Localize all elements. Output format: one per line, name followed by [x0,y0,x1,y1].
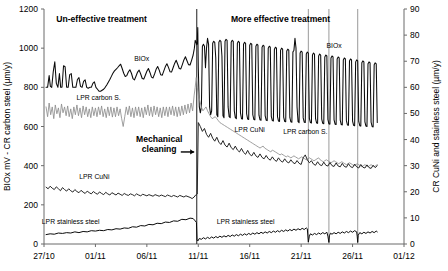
x-tick-label: 11/11 [188,251,208,261]
y-tick-label-right: 80 [410,30,420,40]
more-effective-treatment: More effective treatment [231,14,330,24]
axis-titles-layer: BIOx mV - CR carbon steel (µm/y)CR CuNi … [2,60,441,193]
y-tick-label-right: 50 [410,108,420,118]
mechanical-cleaning: Mechanicalcleaning [136,134,182,154]
series-label-lpr-cuni: LPR CuNi [235,126,266,133]
y-axis-title-right: CR CuNi and stainless steel (µm/y) [431,60,441,193]
y-tick-label-left: 1200 [19,4,38,14]
series-label-biox: BIOx [134,55,150,62]
y-tick-label-right: 90 [410,4,420,14]
y-tick-label-right: 10 [410,213,420,223]
x-tick-label: 21/11 [291,251,312,261]
chart-svg: 0200400600800100012000102030405060708090… [0,0,448,271]
x-tick-label: 01/11 [85,251,106,261]
y-tick-label-right: 60 [410,82,420,92]
series-label-lpr-stainless-steel: LPR stainless steel [217,218,275,225]
series-label-lpr-carbon-s: LPR carbon S. [76,94,120,101]
y-tick-label-right: 40 [410,135,420,145]
y-tick-label-left: 1000 [19,43,38,53]
x-tick-label: 27/10 [33,251,55,261]
y-tick-label-right: 20 [410,187,420,197]
y-tick-label-left: 800 [24,82,38,92]
y-tick-label-left: 600 [24,122,38,132]
x-tick-label: 16/11 [239,251,260,261]
x-tick-label: 26/11 [342,251,363,261]
series-label-lpr-stainless-steel: LPR stainless steel [42,218,100,225]
y-tick-label-left: 200 [24,200,38,210]
chart-figure: 0200400600800100012000102030405060708090… [0,0,448,271]
series-label-lpr-carbon-s: LPR carbon S. [283,128,327,135]
y-tick-label-right: 30 [410,161,420,171]
y-tick-label-left: 0 [33,239,38,249]
series-label-lpr-cuni: LPR CuNi [79,173,110,180]
series-labels-layer: BIOxBIOxLPR carbon S.LPR carbon S.LPR Cu… [42,42,342,225]
y-tick-label-right: 0 [410,239,415,249]
x-tick-label: 01/12 [393,251,415,261]
x-tick-label: 06/11 [137,251,158,261]
y-tick-label-left: 400 [24,161,38,171]
un-effective-treatment: Un-effective treatment [56,14,147,24]
y-tick-label-right: 70 [410,56,420,66]
series-layer [46,28,377,243]
series-label-biox: BIOx [327,42,343,49]
y-axis-title-left: BIOx mV - CR carbon steel (µm/y) [2,62,12,191]
mechanical-cleaning-arrow-head [190,149,194,154]
